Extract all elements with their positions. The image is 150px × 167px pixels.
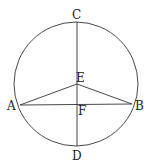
label-b: B <box>135 99 144 113</box>
label-c: C <box>72 8 81 22</box>
segment-ae <box>20 84 77 105</box>
label-f: F <box>78 104 86 118</box>
label-a: A <box>6 99 16 113</box>
label-d: D <box>72 149 82 163</box>
geometry-diagram: C E A B F D <box>0 0 150 167</box>
label-e: E <box>76 71 85 85</box>
segment-eb <box>77 84 132 104</box>
chord-ab <box>20 104 132 105</box>
